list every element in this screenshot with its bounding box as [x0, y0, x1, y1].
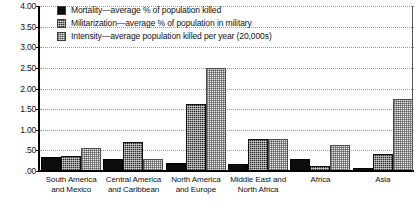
- bar: [373, 154, 393, 171]
- x-axis-category-label: Central America and Caribbean: [102, 175, 164, 195]
- x-axis-category-label: South America and Mexico: [40, 175, 102, 195]
- bar: [248, 139, 268, 171]
- legend-item: Militarization—average % of population i…: [57, 17, 272, 30]
- y-axis-tick-label: 1.50: [2, 105, 36, 114]
- y-axis-tick-label: .50: [2, 146, 36, 155]
- legend-label: Intensity—average population killed per …: [71, 32, 272, 41]
- y-axis-tick-label: 2.00: [2, 85, 36, 94]
- legend-label: Militarization—average % of population i…: [71, 19, 252, 28]
- legend-swatch-icon: [57, 19, 66, 28]
- bar: [206, 68, 226, 171]
- bar: [123, 142, 143, 171]
- bar-group: [289, 6, 351, 171]
- bar: [81, 148, 101, 171]
- x-axis-category-label: Africa: [289, 175, 351, 195]
- chart-legend: Mortality—average % of population killed…: [57, 4, 272, 43]
- x-axis-category-labels: South America and MexicoCentral America …: [40, 175, 414, 195]
- bar: [268, 139, 288, 171]
- legend-item: Intensity—average population killed per …: [57, 30, 272, 43]
- legend-swatch-icon: [57, 32, 66, 41]
- y-axis-tick-label: 1.00: [2, 126, 36, 135]
- y-axis-tick-label: 2.50: [2, 64, 36, 73]
- x-axis-category-label: North America and Europe: [165, 175, 227, 195]
- y-axis-tick-label: .00: [2, 167, 36, 176]
- bar: [393, 99, 413, 171]
- plot-right-border: [412, 6, 413, 171]
- y-axis-tick-label: 3.50: [2, 23, 36, 32]
- bar: [330, 145, 350, 171]
- y-axis-tick-label: 3.00: [2, 43, 36, 52]
- grouped-bar-chart: 4.003.503.002.502.001.501.00.50.00 South…: [0, 0, 420, 221]
- x-axis-category-label: Middle East and North Africa: [227, 175, 289, 195]
- legend-label: Mortality—average % of population killed: [71, 6, 221, 15]
- legend-swatch-icon: [57, 6, 66, 15]
- x-axis-line: [38, 170, 414, 172]
- legend-item: Mortality—average % of population killed: [57, 4, 272, 17]
- bar-group: [352, 6, 414, 171]
- bar: [186, 104, 206, 171]
- bar: [41, 157, 61, 171]
- y-axis-tick-label: 4.00: [2, 2, 36, 11]
- bar: [61, 156, 81, 171]
- x-axis-category-label: Asia: [352, 175, 414, 195]
- y-axis-line: [38, 6, 40, 171]
